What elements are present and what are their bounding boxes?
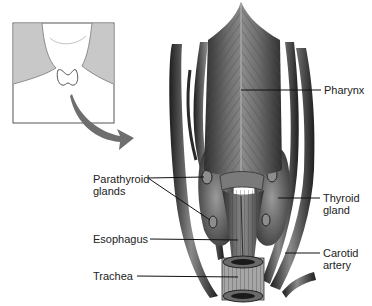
larynx (220, 172, 264, 191)
pharynx (204, 2, 282, 176)
inset-neck-illustration (13, 23, 114, 123)
label-esophagus: Esophagus (93, 233, 148, 245)
label-trachea: Trachea (93, 270, 133, 282)
leader-parathyroid-upper (148, 177, 204, 178)
label-thyroid-gland: Thyroid gland (323, 192, 360, 216)
label-carotid-artery: Carotid artery (323, 247, 358, 271)
esophagus (222, 190, 264, 262)
label-pharynx: Pharynx (324, 84, 364, 96)
label-parathyroid-glands: Parathyroid glands (93, 173, 149, 197)
trachea (222, 256, 264, 302)
diagram-artwork (0, 0, 372, 306)
anatomy-diagram: Pharynx Parathyroid glands Thyroid gland… (0, 0, 372, 306)
